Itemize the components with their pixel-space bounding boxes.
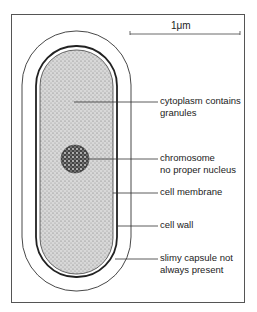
label-cytoplasm: cytoplasm contains granules — [160, 95, 241, 119]
label-wall-line1: cell wall — [160, 219, 193, 231]
label-capsule-line2: always present — [160, 264, 233, 276]
chromosome-body — [61, 145, 89, 173]
label-cytoplasm-line2: granules — [160, 107, 241, 119]
label-chromosome-line2: no proper nucleus — [160, 164, 236, 176]
label-membrane: cell membrane — [160, 186, 222, 198]
label-capsule: slimy capsule not always present — [160, 252, 233, 276]
bacterial-cell-diagram: 1μm cytoplasm contains granules chromoso… — [0, 0, 257, 312]
scale-bar-label: 1μm — [171, 20, 191, 31]
label-chromosome: chromosome no proper nucleus — [160, 152, 236, 176]
label-chromosome-line1: chromosome — [160, 152, 236, 164]
label-cytoplasm-line1: cytoplasm contains — [160, 95, 241, 107]
label-capsule-line1: slimy capsule not — [160, 252, 233, 264]
label-wall: cell wall — [160, 219, 193, 231]
label-membrane-line1: cell membrane — [160, 186, 222, 198]
scale-bar — [130, 31, 240, 35]
